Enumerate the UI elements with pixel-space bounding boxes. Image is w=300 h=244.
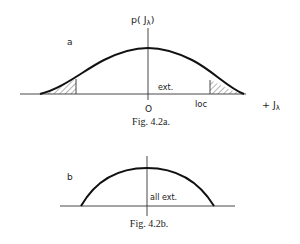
figure-canvas: a p( Jλ) ext. O loc + Jλ Fig. 4.2a. b al…: [0, 0, 300, 244]
figure-b: b all ext. Fig. 4.2b.: [60, 156, 235, 229]
y-axis-label: p( Jλ): [131, 14, 154, 27]
figure-a: a p( Jλ) ext. O loc + Jλ Fig. 4.2a.: [20, 14, 280, 127]
caption-b: Fig. 4.2b.: [130, 218, 168, 229]
x-axis-label: + Jλ: [262, 99, 280, 112]
origin-label: O: [145, 104, 152, 114]
loc-tick-label: loc: [195, 99, 208, 109]
ext-label: ext.: [158, 83, 173, 92]
panel-label-a: a: [67, 37, 73, 47]
distribution-curve-b: [81, 168, 214, 206]
caption-a: Fig. 4.2a.: [132, 116, 170, 127]
panel-label-b: b: [67, 172, 73, 182]
all-ext-label: all ext.: [150, 193, 177, 202]
